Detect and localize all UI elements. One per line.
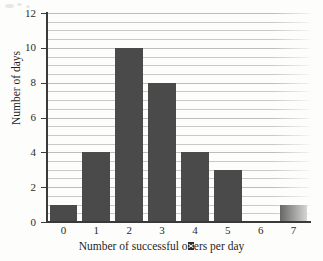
y-axis-tick [41, 48, 47, 49]
x-axis-line [46, 221, 311, 223]
x-axis-title-before: Number of successful o [79, 240, 188, 252]
x-axis-tick-label: 1 [80, 225, 113, 236]
broken-ligature-glyph [188, 242, 194, 250]
x-axis-tick-label: 0 [47, 225, 80, 236]
bar-series [47, 13, 310, 222]
bar-slot [113, 13, 146, 222]
x-axis-tick-label: 5 [211, 225, 244, 236]
bar [115, 48, 143, 222]
y-axis-tick-label: 0 [10, 217, 36, 228]
x-axis-tick-label: 4 [179, 225, 212, 236]
x-axis-title: Number of successful oers per day [0, 240, 323, 252]
y-axis-tick-label: 12 [10, 8, 36, 19]
bar-slot [211, 13, 244, 222]
bar [82, 152, 110, 222]
bar-slot [47, 13, 80, 222]
x-axis-tick-label: 2 [113, 225, 146, 236]
y-axis-tick-label: 4 [10, 147, 36, 158]
y-axis-tick [41, 83, 47, 84]
scan-artifact [17, 3, 22, 6]
y-axis-tick [41, 222, 47, 223]
x-axis-tick-label: 3 [146, 225, 179, 236]
histogram-figure: 024681012 01234567 Number of days Number… [0, 0, 323, 261]
x-axis-tick-label: 7 [277, 225, 310, 236]
bar [50, 205, 78, 222]
x-axis-tick-label: 6 [244, 225, 277, 236]
bar-slot [179, 13, 212, 222]
bar [148, 83, 176, 222]
bar [181, 152, 209, 222]
bar-slot [146, 13, 179, 222]
bar-slot [277, 13, 310, 222]
bar [214, 170, 242, 222]
y-axis-tick [41, 118, 47, 119]
bar-slot [244, 13, 277, 222]
y-axis-title: Number of days [10, 33, 22, 143]
bar [280, 205, 308, 222]
bar-slot [80, 13, 113, 222]
x-axis-title-after: ers per day [194, 240, 244, 252]
y-axis-tick [41, 13, 47, 14]
y-axis-tick-label: 2 [10, 182, 36, 193]
y-axis-tick [41, 152, 47, 153]
y-axis-tick [41, 187, 47, 188]
plot-area [47, 13, 310, 222]
